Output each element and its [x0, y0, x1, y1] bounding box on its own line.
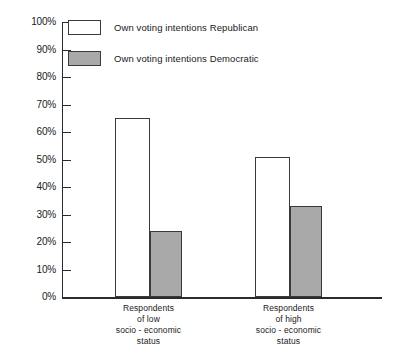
bar-chart: 100%90%80%70%60%50%40%30%20%10%0% Respon… [0, 0, 393, 360]
legend-item-democratic: Own voting intentions Democratic [68, 49, 259, 67]
group-label-line: socio - economic [229, 325, 349, 336]
group-label-line: of low [89, 314, 209, 325]
bar-group1-democratic [150, 231, 182, 297]
group-label-line: status [229, 336, 349, 347]
legend-item-republican: Own voting intentions Republican [68, 18, 259, 36]
group-label-line: of high [229, 314, 349, 325]
group-label-line: Respondents [229, 303, 349, 314]
democratic-swatch-icon [68, 51, 101, 66]
chart-legend: Own voting intentions Republican Own vot… [68, 18, 259, 80]
group-label-line: status [89, 336, 209, 347]
x-axis-line [62, 297, 382, 299]
group-label-line: Respondents [89, 303, 209, 314]
bar-group1-republican [115, 118, 150, 297]
bar-group2-republican [255, 157, 290, 297]
legend-label-republican: Own voting intentions Republican [114, 22, 258, 33]
bar-group2-democratic [290, 206, 322, 297]
republican-swatch-icon [68, 20, 101, 35]
group-label-2: Respondentsof highsocio - economicstatus [229, 303, 349, 347]
group-label-1: Respondentsof lowsocio - economicstatus [89, 303, 209, 347]
group-label-line: socio - economic [89, 325, 209, 336]
legend-label-democratic: Own voting intentions Democratic [114, 53, 259, 64]
